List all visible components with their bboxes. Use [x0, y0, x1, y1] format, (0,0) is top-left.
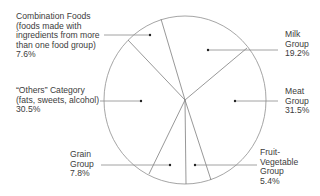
divider-meat-fruitveg: [185, 100, 211, 180]
label-fruit-vegetable-group: Fruit- Vegetable Group 5.4%: [260, 148, 298, 186]
label-milk-group: Milk Group 19.2%: [285, 30, 309, 59]
label-others-category: “Others” Category (fats, sweets, alcohol…: [16, 86, 99, 115]
leader-lines: [100, 35, 278, 165]
leader-dots: [140, 34, 236, 166]
label-meat-group: Meat Group 31.5%: [285, 87, 309, 116]
divider-grain-others: [149, 100, 185, 174]
slice-dividers: [128, 19, 247, 184]
divider-milk-meat: [185, 48, 247, 100]
label-grain-group: Grain Group 7.8%: [70, 150, 94, 179]
label-combination-foods: Combination Foods (foods made with ingre…: [16, 12, 100, 60]
divider-fruitveg-grain: [185, 100, 186, 184]
